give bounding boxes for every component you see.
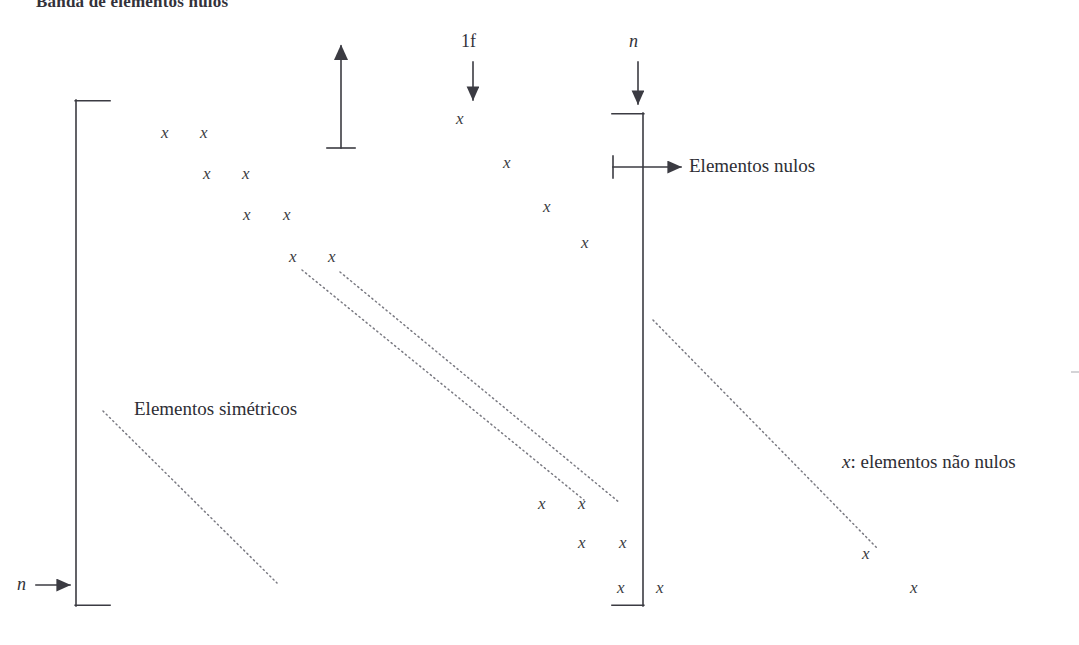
matrix-x-entry: x xyxy=(538,495,546,512)
arrow-elementos-nulos xyxy=(613,156,681,178)
matrix-x-entry: x xyxy=(503,154,511,171)
matrix-x-entry: x xyxy=(161,124,169,141)
diagram-linework xyxy=(0,0,1079,645)
matrix-x-entry: x xyxy=(283,206,291,223)
label-1f: 1f xyxy=(461,32,476,50)
legend-nonzero-elements: x: elementos não nulos xyxy=(842,452,1016,471)
matrix-x-entry: x xyxy=(203,165,211,182)
label-elementos-simetricos: Elementos simétricos xyxy=(134,399,297,418)
matrix-x-entry: x xyxy=(328,248,336,265)
left-matrix-bracket xyxy=(75,100,110,606)
label-elementos-nulos: Elementos nulos xyxy=(689,156,815,175)
matrix-x-entry: x xyxy=(862,545,870,562)
matrix-x-entry: x xyxy=(656,579,664,596)
right-band-bracket xyxy=(612,113,644,606)
matrix-x-entry: x xyxy=(578,495,586,512)
label-n-top: n xyxy=(629,32,638,50)
matrix-x-entry: x xyxy=(619,534,627,551)
bandwidth-up-arrow xyxy=(327,46,355,148)
dotted-band-edge-lower xyxy=(340,272,620,503)
matrix-x-entry: x xyxy=(543,198,551,215)
dotted-band-edge-upper xyxy=(302,270,584,500)
matrix-x-entry: x xyxy=(243,206,251,223)
matrix-x-entry: x xyxy=(200,124,208,141)
matrix-x-entry: x xyxy=(242,165,250,182)
matrix-x-entry: x xyxy=(617,579,625,596)
matrix-x-entry: x xyxy=(289,248,297,265)
figure-banda-elementos-nulos: Banda de elementos nulos xyxy=(0,0,1079,645)
legend-nonzero-text: : elementos não nulos xyxy=(850,451,1015,472)
label-n-left: n xyxy=(17,575,26,593)
matrix-x-entry: x xyxy=(456,110,464,127)
matrix-x-entry: x xyxy=(581,234,589,251)
dotted-nonzero-guide xyxy=(653,320,877,548)
dotted-symmetric-guide xyxy=(103,411,277,583)
matrix-x-entry: x xyxy=(578,534,586,551)
matrix-x-entry: x xyxy=(910,579,918,596)
